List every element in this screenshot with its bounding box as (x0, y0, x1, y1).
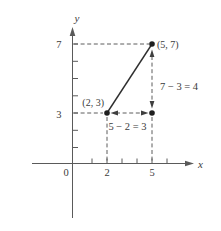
point-a-dot (104, 110, 110, 116)
segment-a-to-b (107, 44, 152, 113)
run-left-arrowhead-icon (111, 111, 119, 116)
y-axis-label: y (74, 12, 80, 24)
x-axis-label: x (197, 158, 203, 170)
point-a-label: (2, 3) (82, 97, 104, 109)
y-axis-arrowhead-icon (70, 27, 76, 36)
x-axis-ticks (92, 159, 167, 164)
origin-label: 0 (63, 167, 68, 178)
point-b-dot (149, 41, 155, 47)
run-equation-label: 5 − 2 = 3 (108, 121, 146, 132)
x-axis-arrowhead-icon (185, 161, 194, 167)
corner-point-dot (149, 110, 155, 116)
x-tick-label-2: 2 (104, 167, 109, 178)
rise-double-arrow (150, 50, 155, 109)
figure-canvas: y x 0 2 5 3 7 (2, 3) (5, 7) 5 − 2 = 3 7 … (0, 0, 221, 231)
rise-up-arrowhead-icon (150, 50, 155, 58)
run-right-arrowhead-icon (141, 111, 149, 116)
coordinate-plane-figure: y x 0 2 5 3 7 (2, 3) (5, 7) 5 − 2 = 3 7 … (0, 0, 221, 231)
point-b-label: (5, 7) (157, 39, 179, 51)
rise-equation-label: 7 − 3 = 4 (160, 81, 199, 92)
y-axis-ticks (73, 44, 79, 148)
y-tick-label-3: 3 (56, 109, 61, 120)
rise-down-arrowhead-icon (150, 101, 155, 109)
y-tick-label-7: 7 (56, 39, 61, 50)
run-double-arrow (111, 111, 149, 116)
x-tick-label-5: 5 (149, 167, 154, 178)
